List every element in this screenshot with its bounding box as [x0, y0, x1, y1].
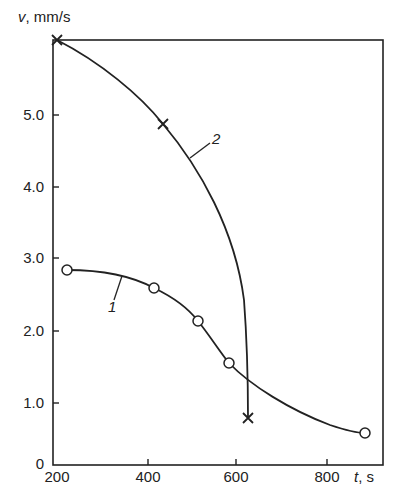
- circle-marker-icon: [360, 428, 370, 438]
- y-tick-label: 3.0: [4, 249, 44, 266]
- y-tick-label: 4.0: [4, 178, 44, 195]
- series-2-markers: [52, 35, 253, 423]
- plot-frame: [53, 40, 383, 465]
- x-tick-label: 800: [302, 468, 352, 485]
- y-tick-label: 2.0: [4, 322, 44, 339]
- series-2-line: [57, 40, 248, 418]
- x-tick-label: 600: [211, 468, 261, 485]
- x-tick-label: 400: [123, 468, 173, 485]
- curve-1-label: 1: [108, 298, 116, 315]
- x-axis-title: t, s: [354, 468, 374, 485]
- y-tick-label: 5.0: [4, 106, 44, 123]
- circle-marker-icon: [149, 283, 159, 293]
- curve-1-leader: [114, 276, 122, 300]
- y-tick-label: 1.0: [4, 394, 44, 411]
- x-tick-label: 200: [32, 468, 82, 485]
- curve-2-label: 2: [212, 130, 220, 147]
- y-axis-unit: , mm/s: [26, 8, 71, 25]
- y-axis-title: v, mm/s: [18, 8, 71, 25]
- circle-marker-icon: [193, 316, 203, 326]
- cross-marker-icon: [158, 119, 168, 129]
- chart-canvas: [0, 0, 401, 500]
- circle-marker-icon: [224, 358, 234, 368]
- x-axis-unit: , s: [358, 468, 374, 485]
- circle-marker-icon: [62, 265, 72, 275]
- series-1-line: [67, 270, 365, 433]
- y-tick-marks: [53, 115, 59, 403]
- curve-2-leader: [190, 143, 210, 158]
- y-axis-var: v: [18, 8, 26, 25]
- x-tick-marks: [148, 459, 327, 465]
- series-1-markers: [62, 265, 370, 438]
